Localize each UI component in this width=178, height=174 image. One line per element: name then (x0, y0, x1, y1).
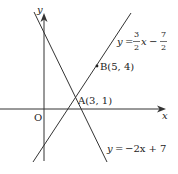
eq2-var: x (141, 36, 147, 47)
eq2-slope-num: 3 (134, 30, 139, 39)
y-axis-label: y (36, 4, 43, 15)
eq2-y: y (116, 36, 123, 47)
eq2-slope-den: 2 (134, 43, 139, 52)
coordinate-diagram: y x O A(3, 1) B(5, 4) y = 3 2 x − 7 2 y … (0, 0, 178, 174)
eq1-y: y (106, 143, 113, 154)
point-a-label: A(3, 1) (77, 95, 112, 106)
eq2-const-den: 2 (161, 43, 166, 52)
line-y-neg2x-plus7 (34, 12, 107, 162)
y-axis (41, 13, 48, 161)
eq1-equals: = (115, 143, 123, 154)
eq1-rhs: −2x + 7 (125, 143, 166, 154)
x-axis (0, 106, 166, 113)
x-axis-label: x (162, 110, 168, 121)
equation-line-1: y = −2x + 7 (106, 143, 166, 154)
point-b (96, 65, 99, 68)
eq2-equals: = (125, 36, 133, 47)
eq2-const-num: 7 (161, 30, 166, 39)
origin-label: O (34, 112, 42, 123)
point-b-label: B(5, 4) (100, 61, 134, 72)
equation-line-2: y = 3 2 x − 7 2 (116, 30, 167, 52)
eq2-minus: − (149, 36, 157, 47)
